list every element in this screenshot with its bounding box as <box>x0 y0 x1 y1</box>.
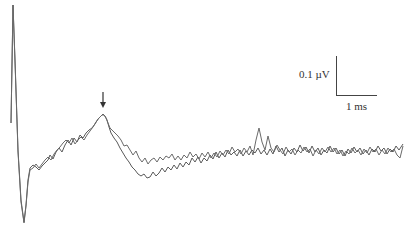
waveform-plot <box>0 0 408 229</box>
trace-2 <box>11 5 403 223</box>
trace-1 <box>11 5 403 222</box>
scale-bar <box>336 56 377 96</box>
voltage-scale-label: 0.1 µV <box>299 68 330 80</box>
peak-arrow-icon <box>100 92 106 108</box>
time-scale-label: 1 ms <box>346 100 367 112</box>
